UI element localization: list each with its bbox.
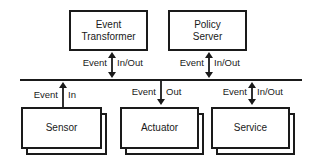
policy-server-conn-left-label: Event — [173, 57, 204, 68]
policy-server-box: Policy Server — [168, 10, 247, 51]
policy-server-label-line2: Server — [193, 31, 222, 43]
event-transformer-conn-left-label: Event — [76, 57, 107, 68]
service-box: Service — [211, 107, 290, 149]
actuator-box: Actuator — [120, 107, 199, 149]
policy-server-label-line1: Policy — [193, 19, 222, 31]
event-transformer-label-line2: Transformer — [81, 31, 135, 43]
service-conn-left-label: Event — [216, 86, 247, 97]
event-transformer-conn-right-label: In/Out — [117, 57, 143, 68]
sensor-conn-left-label: Event — [27, 89, 58, 100]
actuator-conn-right-label: Out — [166, 86, 181, 97]
actuator-conn-left-label: Event — [125, 86, 156, 97]
actuator-label: Actuator — [141, 122, 178, 134]
sensor-conn-right-label: In — [68, 89, 76, 100]
service-label: Service — [234, 122, 267, 134]
policy-server-conn-right-label: In/Out — [214, 57, 240, 68]
sensor-label: Sensor — [46, 122, 78, 134]
event-transformer-label-line1: Event — [81, 19, 135, 31]
service-conn-right-label: In/Out — [257, 86, 283, 97]
event-transformer-box: Event Transformer — [69, 10, 148, 51]
event-architecture-diagram: Event Transformer Policy Server Event In… — [0, 0, 316, 167]
sensor-box: Sensor — [21, 107, 102, 149]
